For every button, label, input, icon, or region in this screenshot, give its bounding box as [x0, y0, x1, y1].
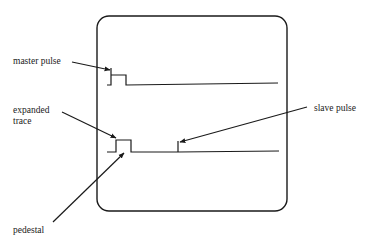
expanded-trace-label-line2: trace: [13, 116, 31, 126]
master-pulse-arrow: [72, 62, 110, 70]
master-pulse-label: master pulse: [13, 56, 61, 66]
slave-pulse-arrow: [180, 107, 307, 142]
expanded-trace-arrow: [62, 112, 116, 138]
oscilloscope-screen-frame: [97, 16, 287, 211]
expanded-trace-label-line1: expanded: [13, 105, 50, 115]
expanded-trace: [107, 140, 279, 152]
pedestal-label: pedestal: [13, 225, 44, 235]
master-trace: [107, 68, 278, 85]
slave-pulse-label: slave pulse: [314, 103, 356, 113]
oscilloscope-diagram: master pulse expanded trace slave pulse …: [0, 0, 377, 246]
